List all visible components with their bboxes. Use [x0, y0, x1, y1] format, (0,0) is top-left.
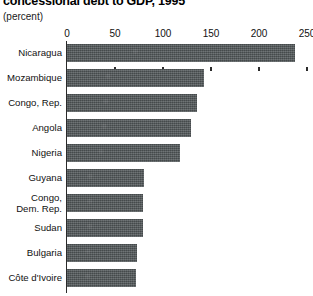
bar-row: Congo, Rep. [0, 93, 313, 118]
bar-row: Nigeria [0, 143, 313, 168]
bar-row: Côte d'Ivoire [0, 268, 313, 293]
bar-row: Congo, Dem. Rep. [0, 193, 313, 218]
x-tick-label: 100 [155, 28, 172, 39]
category-label: Nicaragua [0, 47, 62, 58]
plot-area: 050100150200250 NicaraguaMozambiqueCongo… [0, 0, 313, 296]
x-tick-label: 50 [109, 28, 120, 39]
category-label: Sudan [0, 222, 62, 233]
bar-row: Guyana [0, 168, 313, 193]
x-tick-label: 250 [299, 28, 313, 39]
bar-row: Mozambique [0, 68, 313, 93]
bar [67, 119, 191, 137]
bar-row: Sudan [0, 218, 313, 243]
x-tick-label: 0 [64, 28, 70, 39]
x-tick-label: 150 [203, 28, 220, 39]
category-label: Mozambique [0, 72, 62, 83]
category-label: Côte d'Ivoire [0, 272, 62, 283]
chart-figure: concessional debt to GDP, 1995 (percent)… [0, 0, 313, 296]
bar [67, 94, 197, 112]
bar [67, 269, 136, 287]
x-tick-label: 200 [251, 28, 268, 39]
category-label: Angola [0, 122, 62, 133]
x-axis-tick-labels: 050100150200250 [0, 28, 313, 40]
bar [67, 219, 143, 237]
bar [67, 44, 295, 62]
bar [67, 244, 137, 262]
category-label: Nigeria [0, 147, 62, 158]
category-label: Guyana [0, 172, 62, 183]
bar [67, 69, 204, 87]
bar [67, 169, 144, 187]
bar [67, 194, 143, 212]
category-label: Congo, Rep. [0, 97, 62, 108]
bar-row: Angola [0, 118, 313, 143]
bar-rows: NicaraguaMozambiqueCongo, Rep.AngolaNige… [0, 43, 313, 293]
category-label: Bulgaria [0, 247, 62, 258]
bar-row: Nicaragua [0, 43, 313, 68]
bar [67, 144, 180, 162]
category-label: Congo, Dem. Rep. [0, 192, 62, 214]
bar-row: Bulgaria [0, 243, 313, 268]
